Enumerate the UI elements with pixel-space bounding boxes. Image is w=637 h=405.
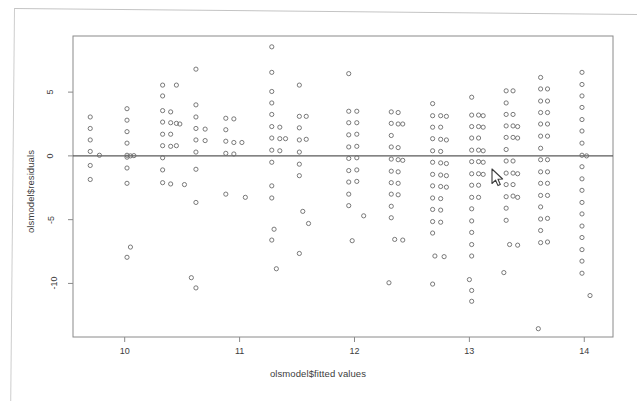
scatter-point xyxy=(539,134,543,138)
scatter-point xyxy=(270,196,274,200)
scatter-point xyxy=(125,255,129,259)
scatter-point xyxy=(511,112,515,116)
scatter-point xyxy=(194,286,198,290)
scatter-point xyxy=(194,200,198,204)
scatter-point xyxy=(174,144,178,148)
scatter-point xyxy=(444,174,448,178)
scatter-point xyxy=(470,136,474,140)
scatter-point xyxy=(347,180,351,184)
scatter-point xyxy=(545,240,549,244)
scatter-point xyxy=(504,147,508,151)
scatter-point xyxy=(545,216,549,220)
scatter-point xyxy=(182,182,186,186)
scatter-point xyxy=(396,122,400,126)
scatter-point xyxy=(387,281,391,285)
scatter-point xyxy=(278,149,282,153)
x-axis-title: olsmodel$fitted values xyxy=(0,368,636,379)
scatter-point xyxy=(88,126,92,130)
scatter-point xyxy=(389,145,393,149)
scatter-point xyxy=(580,188,584,192)
scatter-point xyxy=(476,172,480,176)
scatter-point xyxy=(125,107,129,111)
x-tick-label: 10 xyxy=(120,346,130,356)
scatter-point xyxy=(439,208,443,212)
scatter-point xyxy=(511,159,515,163)
scatter-point xyxy=(161,144,165,148)
scatter-point xyxy=(580,177,584,181)
scatter-point xyxy=(470,219,474,223)
scatter-point xyxy=(580,141,584,145)
scatter-point xyxy=(362,214,366,218)
scatter-point xyxy=(470,242,474,246)
scatter-point xyxy=(431,231,435,235)
scatter-point xyxy=(194,115,198,119)
scatter-point xyxy=(470,124,474,128)
scatter-point xyxy=(347,72,351,76)
scatter-point xyxy=(580,165,584,169)
scatter-point xyxy=(470,172,474,176)
scatter-point xyxy=(470,183,474,187)
scatter-point xyxy=(431,207,435,211)
scatter-point xyxy=(232,117,236,121)
scatter-point xyxy=(431,160,435,164)
scatter-point xyxy=(439,161,443,165)
scatter-point xyxy=(439,184,443,188)
scatter-point xyxy=(504,206,508,210)
scatter-point xyxy=(580,259,584,263)
scatter-point xyxy=(297,138,301,142)
scatter-point xyxy=(539,193,543,197)
scatter-point xyxy=(439,220,443,224)
scatter-point xyxy=(580,117,584,121)
scatter-point xyxy=(278,125,282,129)
scatter-point xyxy=(224,151,228,155)
scatter-point xyxy=(396,193,400,197)
scatter-point xyxy=(539,181,543,185)
scatter-point xyxy=(274,267,278,271)
scatter-point xyxy=(580,82,584,86)
scatter-point xyxy=(88,163,92,167)
scatter-point xyxy=(161,181,165,185)
scatter-point xyxy=(470,113,474,117)
scatter-point xyxy=(161,168,165,172)
scatter-point xyxy=(481,149,485,153)
scatter-point xyxy=(504,159,508,163)
scatter-point xyxy=(161,83,165,87)
scatter-point xyxy=(347,156,351,160)
scatter-point xyxy=(545,170,549,174)
scatter-point xyxy=(470,160,474,164)
scatter-point xyxy=(580,212,584,216)
scatter-point xyxy=(539,87,543,91)
y-tick-label: -5 xyxy=(46,216,56,224)
scatter-point xyxy=(516,172,520,176)
scatter-point xyxy=(539,205,543,209)
scatter-point xyxy=(161,120,165,124)
scatter-point xyxy=(511,89,515,93)
scatter-point xyxy=(355,132,359,136)
scatter-point xyxy=(545,87,549,91)
scatter-point xyxy=(580,70,584,74)
scatter-point xyxy=(580,248,584,252)
scatter-point xyxy=(580,105,584,109)
scatter-point xyxy=(194,167,198,171)
scatter-point xyxy=(224,192,228,196)
scatter-point xyxy=(470,288,474,292)
scatter-point xyxy=(270,160,274,164)
scatter-point xyxy=(396,170,400,174)
scatter-point xyxy=(297,251,301,255)
scatter-point xyxy=(470,95,474,99)
scatter-point xyxy=(545,110,549,114)
scatter-point xyxy=(270,238,274,242)
scatter-point xyxy=(439,114,443,118)
scatter-point xyxy=(481,125,485,129)
scatter-point xyxy=(433,254,437,258)
scatter-point xyxy=(347,109,351,113)
scatter-point xyxy=(88,149,92,153)
scatter-point xyxy=(539,146,543,150)
scatter-point xyxy=(297,162,301,166)
scatter-point xyxy=(270,124,274,128)
scatter-point xyxy=(389,192,393,196)
scatter-point xyxy=(545,158,549,162)
y-axis-title: olsmodel$residuals xyxy=(25,102,36,282)
scatter-point xyxy=(224,139,228,143)
